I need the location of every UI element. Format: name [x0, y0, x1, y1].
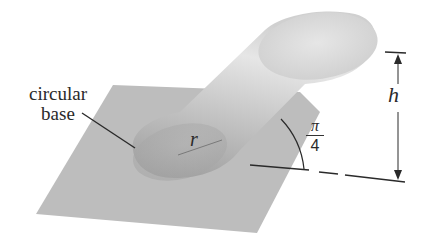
height-label: h: [388, 84, 399, 106]
arrow-up-icon: [394, 54, 402, 64]
dashed-extension-2: [345, 175, 405, 182]
oblique-cylinder-figure: [0, 0, 425, 251]
angle-denominator: 4: [304, 137, 326, 154]
height-top-tick: [385, 52, 406, 53]
dashed-extension: [319, 172, 338, 174]
angle-numerator: π: [304, 118, 326, 134]
arrow-down-icon: [394, 170, 402, 180]
fraction-bar: [306, 135, 324, 136]
circular-base-label-line1: circular: [29, 83, 87, 104]
circular-base-label-line2: base: [41, 103, 75, 124]
angle-label: π 4: [304, 118, 326, 154]
circular-base-label: circular base: [22, 84, 94, 124]
radius-label: r: [190, 129, 198, 149]
